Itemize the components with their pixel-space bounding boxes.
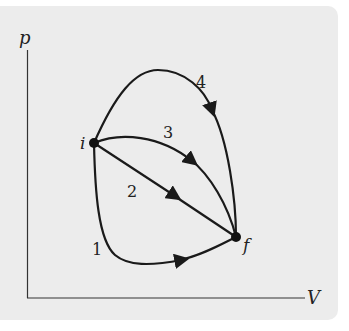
x-axis-label: V	[307, 287, 322, 308]
path-3-label: 3	[163, 123, 173, 142]
pv-diagram: p V 4 3 2 1 i f	[0, 0, 349, 331]
path-4: 4	[94, 70, 236, 237]
axes: p V	[19, 27, 322, 308]
point-f: f	[231, 232, 252, 255]
path-3: 3	[94, 123, 236, 237]
path-2: 2	[94, 143, 236, 237]
y-axis-label: p	[19, 27, 31, 48]
path-4-label: 4	[196, 73, 206, 92]
path-2-label: 2	[127, 182, 137, 201]
path-1-label: 1	[92, 240, 102, 259]
path-1: 1	[92, 143, 236, 264]
point-i-label: i	[80, 133, 85, 153]
point-f-label: f	[241, 235, 252, 255]
